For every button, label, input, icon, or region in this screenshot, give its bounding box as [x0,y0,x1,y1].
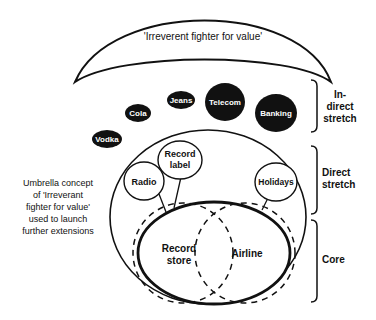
brand-extension-diagram: 'Irreverent fighter for value' Vodka Col… [0,0,376,320]
indirect-line2: direct [326,101,354,112]
record-store-line2: store [167,255,192,266]
svg-text:further extensions: further extensions [22,226,94,236]
indirect-extensions: Vodka Cola Jeans Telecom Banking [92,83,297,148]
banking-label: Banking [260,109,292,118]
indirect-line1: In- [334,89,346,100]
direct-bracket [311,146,317,214]
holidays-label: Holidays [258,177,294,187]
core-bracket-label: Core [322,254,345,265]
brackets [311,80,317,302]
umbrella-banner: 'Irreverent fighter for value' [75,21,331,83]
vodka-label: Vodka [95,135,119,144]
telecom-label: Telecom [209,98,241,107]
jeans-label: Jeans [170,96,193,105]
svg-text:of 'Irreverant: of 'Irreverant [33,190,84,200]
cola-label: Cola [129,109,147,118]
core-bracket [311,220,317,302]
airline-label: Airline [231,248,263,259]
radio-label: Radio [131,177,157,187]
direct-line2: stretch [322,179,355,190]
indirect-line3: stretch [323,113,356,124]
core-group: Record store Airline [133,202,295,304]
svg-text:Umbrella concept: Umbrella concept [23,178,94,188]
record-label-line2: label [170,160,191,170]
indirect-bracket [311,80,317,132]
direct-line1: Direct [322,167,351,178]
record-label-line1: Record [164,149,195,159]
svg-text:fighter for value': fighter for value' [26,202,90,212]
svg-text:used to launch: used to launch [29,214,88,224]
side-note: Umbrella concept of 'Irreverant fighter … [22,178,94,236]
banner-label: 'Irreverent fighter for value' [144,31,262,42]
record-store-line1: Record [162,243,196,254]
